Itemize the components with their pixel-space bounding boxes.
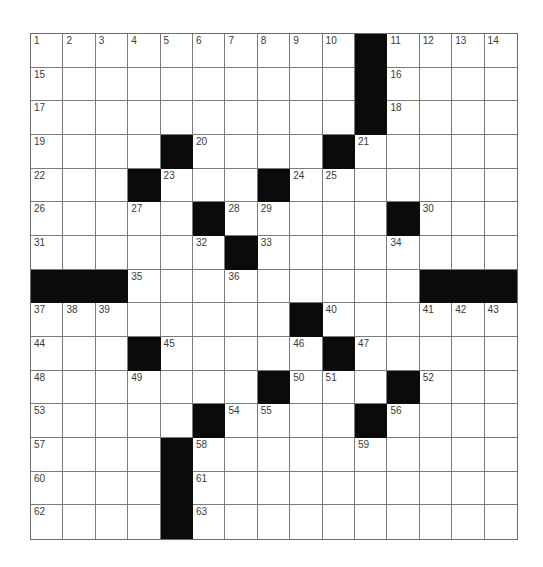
answer-cell[interactable]: 47 (355, 337, 387, 371)
answer-cell[interactable]: 32 (193, 236, 225, 270)
answer-cell[interactable] (63, 68, 95, 102)
answer-cell[interactable] (485, 337, 517, 371)
answer-cell[interactable] (323, 101, 355, 135)
answer-cell[interactable] (420, 169, 452, 203)
answer-cell[interactable]: 14 (485, 34, 517, 68)
answer-cell[interactable]: 58 (193, 438, 225, 472)
answer-cell[interactable] (355, 169, 387, 203)
answer-cell[interactable] (96, 202, 128, 236)
answer-cell[interactable]: 63 (193, 505, 225, 539)
answer-cell[interactable] (193, 303, 225, 337)
answer-cell[interactable] (290, 505, 322, 539)
answer-cell[interactable] (323, 472, 355, 506)
answer-cell[interactable]: 1 (31, 34, 63, 68)
answer-cell[interactable] (225, 135, 257, 169)
answer-cell[interactable] (225, 101, 257, 135)
answer-cell[interactable]: 29 (258, 202, 290, 236)
answer-cell[interactable] (420, 337, 452, 371)
answer-cell[interactable]: 20 (193, 135, 225, 169)
answer-cell[interactable] (387, 303, 419, 337)
answer-cell[interactable]: 56 (387, 404, 419, 438)
answer-cell[interactable] (128, 303, 160, 337)
answer-cell[interactable]: 46 (290, 337, 322, 371)
answer-cell[interactable] (323, 68, 355, 102)
answer-cell[interactable]: 45 (161, 337, 193, 371)
answer-cell[interactable] (485, 169, 517, 203)
answer-cell[interactable] (96, 135, 128, 169)
answer-cell[interactable] (323, 438, 355, 472)
answer-cell[interactable]: 7 (225, 34, 257, 68)
answer-cell[interactable] (96, 68, 128, 102)
answer-cell[interactable] (225, 337, 257, 371)
answer-cell[interactable] (420, 472, 452, 506)
answer-cell[interactable]: 13 (452, 34, 484, 68)
answer-cell[interactable]: 25 (323, 169, 355, 203)
answer-cell[interactable] (355, 236, 387, 270)
answer-cell[interactable] (323, 505, 355, 539)
answer-cell[interactable]: 60 (31, 472, 63, 506)
answer-cell[interactable] (485, 101, 517, 135)
answer-cell[interactable] (96, 472, 128, 506)
answer-cell[interactable] (128, 236, 160, 270)
answer-cell[interactable]: 51 (323, 371, 355, 405)
answer-cell[interactable]: 52 (420, 371, 452, 405)
answer-cell[interactable] (387, 505, 419, 539)
answer-cell[interactable] (355, 505, 387, 539)
answer-cell[interactable] (96, 404, 128, 438)
answer-cell[interactable] (485, 68, 517, 102)
answer-cell[interactable] (96, 438, 128, 472)
answer-cell[interactable] (225, 505, 257, 539)
answer-cell[interactable] (63, 505, 95, 539)
answer-cell[interactable]: 49 (128, 371, 160, 405)
answer-cell[interactable] (355, 371, 387, 405)
answer-cell[interactable] (323, 270, 355, 304)
answer-cell[interactable] (161, 68, 193, 102)
answer-cell[interactable]: 50 (290, 371, 322, 405)
answer-cell[interactable] (128, 68, 160, 102)
answer-cell[interactable]: 16 (387, 68, 419, 102)
answer-cell[interactable] (290, 472, 322, 506)
answer-cell[interactable]: 44 (31, 337, 63, 371)
answer-cell[interactable] (63, 404, 95, 438)
answer-cell[interactable]: 54 (225, 404, 257, 438)
answer-cell[interactable] (420, 236, 452, 270)
answer-cell[interactable] (452, 472, 484, 506)
answer-cell[interactable] (193, 371, 225, 405)
answer-cell[interactable] (355, 472, 387, 506)
answer-cell[interactable]: 53 (31, 404, 63, 438)
answer-cell[interactable] (96, 169, 128, 203)
answer-cell[interactable]: 9 (290, 34, 322, 68)
answer-cell[interactable]: 17 (31, 101, 63, 135)
answer-cell[interactable] (96, 371, 128, 405)
answer-cell[interactable] (63, 371, 95, 405)
answer-cell[interactable] (193, 270, 225, 304)
answer-cell[interactable] (290, 236, 322, 270)
answer-cell[interactable] (452, 505, 484, 539)
answer-cell[interactable] (128, 505, 160, 539)
answer-cell[interactable]: 24 (290, 169, 322, 203)
answer-cell[interactable]: 3 (96, 34, 128, 68)
answer-cell[interactable] (96, 505, 128, 539)
answer-cell[interactable]: 11 (387, 34, 419, 68)
answer-cell[interactable] (63, 236, 95, 270)
answer-cell[interactable]: 12 (420, 34, 452, 68)
answer-cell[interactable]: 59 (355, 438, 387, 472)
answer-cell[interactable] (258, 135, 290, 169)
answer-cell[interactable] (258, 438, 290, 472)
answer-cell[interactable]: 40 (323, 303, 355, 337)
answer-cell[interactable]: 35 (128, 270, 160, 304)
answer-cell[interactable] (63, 101, 95, 135)
answer-cell[interactable] (225, 371, 257, 405)
answer-cell[interactable] (128, 404, 160, 438)
answer-cell[interactable] (258, 472, 290, 506)
answer-cell[interactable] (96, 236, 128, 270)
answer-cell[interactable]: 19 (31, 135, 63, 169)
answer-cell[interactable] (452, 68, 484, 102)
answer-cell[interactable] (193, 68, 225, 102)
answer-cell[interactable] (290, 404, 322, 438)
answer-cell[interactable] (161, 371, 193, 405)
answer-cell[interactable] (63, 202, 95, 236)
answer-cell[interactable] (323, 404, 355, 438)
answer-cell[interactable] (258, 101, 290, 135)
answer-cell[interactable] (387, 337, 419, 371)
